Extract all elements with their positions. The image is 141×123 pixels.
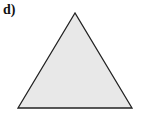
triangle-diagram [0,0,141,123]
triangle-shape [18,13,132,108]
